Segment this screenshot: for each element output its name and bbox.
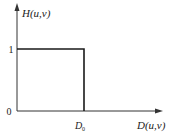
x-axis-label: D(u,v) <box>136 119 166 132</box>
origin-label: 0 <box>7 106 12 117</box>
y-tick-one: 1 <box>9 44 14 55</box>
chart-canvas: H(u,v) 1 0 D0 D(u,v) <box>0 0 175 139</box>
y-axis-label: H(u,v) <box>21 7 51 20</box>
y-axis-arrow-icon <box>15 3 20 11</box>
x-tick-d0: D0 <box>74 120 85 132</box>
x-axis-arrow-icon <box>155 109 163 114</box>
transfer-function-line <box>17 49 84 111</box>
